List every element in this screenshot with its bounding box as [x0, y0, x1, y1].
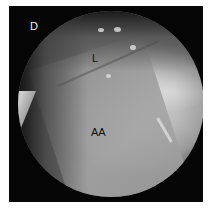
highlight-spot: [114, 27, 121, 32]
highlight-spot: [98, 28, 104, 32]
scope-view: L AA: [18, 11, 203, 197]
label-l: L: [92, 53, 98, 64]
highlight-spot: [130, 45, 136, 50]
endoscopic-image-frame: D L AA: [9, 6, 203, 202]
highlight-spot: [106, 74, 111, 78]
label-aa: AA: [91, 127, 106, 138]
